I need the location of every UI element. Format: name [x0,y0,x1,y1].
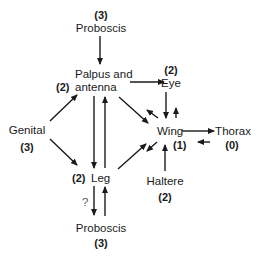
haltere-label: Haltere [146,175,183,188]
palpus-level: (2) [56,81,69,94]
uncertain-mark: ? [82,196,88,209]
wing-level: (1) [173,139,186,152]
palpus-label-line2: antenna [75,81,117,94]
proboscis-bottom-label: Proboscis [76,222,127,235]
edge-leg-to-wing [118,144,146,169]
proboscis-top-label: Proboscis [76,22,127,35]
edge-wing-to-leg [147,142,157,151]
eye-level: (2) [164,64,177,77]
edge-wing-to-palpus [147,110,158,118]
wing-label: Wing [157,125,183,138]
thorax-label: Thorax [215,125,251,138]
leg-level: (2) [72,172,85,185]
genital-level: (3) [20,141,33,154]
haltere-level: (2) [158,191,171,204]
genital-label: Genital [9,124,45,137]
palpus-label-line1: Palpus and [75,68,133,81]
eye-label: Eye [161,77,181,90]
proboscis-top-level: (3) [94,9,107,22]
leg-label: Leg [91,172,110,185]
edge-genital-to-palpus [50,95,77,121]
edge-palpus-to-wing [119,97,148,123]
edge-genital-to-leg [50,139,77,165]
proboscis-bottom-level: (3) [94,237,107,250]
thorax-level: (0) [225,139,238,152]
